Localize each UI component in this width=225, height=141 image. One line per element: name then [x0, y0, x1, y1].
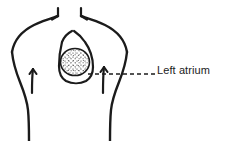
anatomy-illustration	[0, 0, 225, 141]
left-atrium-region	[61, 49, 90, 76]
anatomy-figure: Left atrium	[0, 0, 225, 141]
